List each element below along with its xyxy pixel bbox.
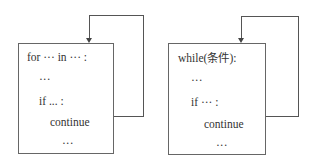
- loop-line-left: [89, 15, 90, 39]
- code-line-ellipsis: ···: [39, 73, 51, 85]
- code-line-ellipsis: ···: [191, 74, 203, 86]
- code-line-continue: continue: [204, 118, 244, 130]
- loop-line-right: [143, 15, 144, 117]
- code-line-ellipsis-end: ···: [62, 137, 74, 149]
- loop-line-top: [89, 15, 144, 16]
- code-line-while: while(条件):: [178, 52, 236, 64]
- code-line-for: for ··· in ··· :: [27, 51, 87, 63]
- code-line-if: if ··· :: [191, 96, 218, 108]
- code-line-ellipsis-end: ···: [216, 139, 228, 151]
- code-line-continue: continue: [50, 116, 90, 128]
- loop-line-left: [241, 16, 242, 39]
- loop-line-right: [298, 16, 299, 117]
- code-line-if: if ... :: [39, 95, 64, 107]
- loop-line-top: [241, 16, 299, 17]
